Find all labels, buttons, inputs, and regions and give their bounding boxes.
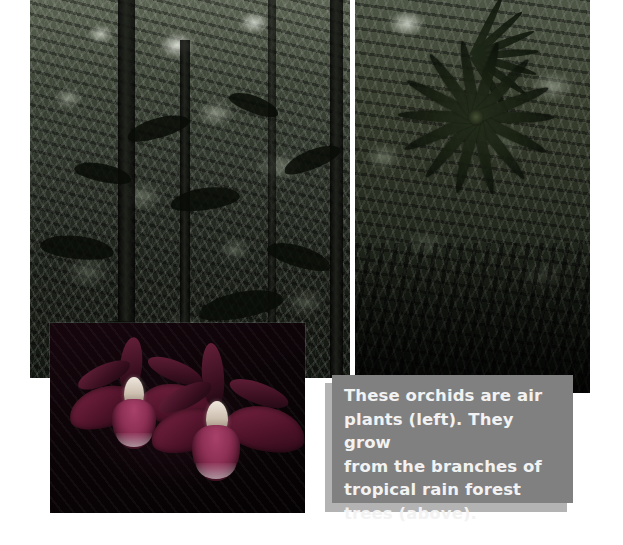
orchid-flower xyxy=(158,357,305,497)
forest-understory xyxy=(355,243,590,393)
tree-trunk xyxy=(268,0,276,378)
leaf-frond xyxy=(39,232,115,263)
rain-forest-photo-right xyxy=(355,0,590,393)
caption-box: These orchids are air plants (left). The… xyxy=(332,375,573,503)
orchid-lip xyxy=(192,425,240,481)
bromeliad-rosette xyxy=(391,42,561,192)
orchid-lip xyxy=(112,399,156,449)
orchid-sepal xyxy=(200,342,227,409)
caption-text: These orchids are air plants (left). The… xyxy=(344,384,561,525)
tree-trunk xyxy=(330,0,343,378)
rosette-center xyxy=(468,109,484,125)
orchid-closeup-photo xyxy=(50,323,305,513)
photo-page: These orchids are air plants (left). The… xyxy=(0,0,623,545)
rain-forest-photo-left xyxy=(30,0,350,378)
